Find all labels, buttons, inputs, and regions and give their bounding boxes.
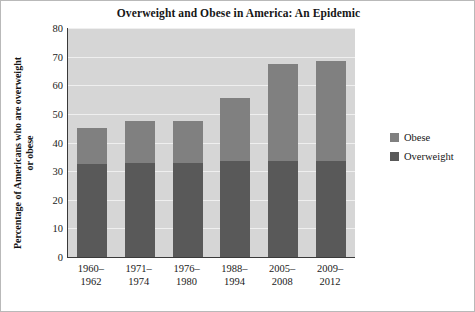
legend: ObeseOverweight <box>390 132 454 162</box>
chart-figure: Overweight and Obese in America: An Epid… <box>0 0 475 312</box>
bar-group <box>68 28 355 257</box>
legend-swatch <box>390 133 399 142</box>
x-axis-tick-label-line2: 2012 <box>308 275 352 288</box>
x-axis-tick-label-line2: 1994 <box>212 275 256 288</box>
bar-segment-overweight <box>77 164 107 257</box>
bar-segment-overweight <box>220 161 250 257</box>
y-axis-tick-label: 70 <box>35 51 63 62</box>
chart-title: Overweight and Obese in America: An Epid… <box>1 7 475 19</box>
bar-segment-overweight <box>316 161 346 257</box>
bar-stack <box>316 28 346 257</box>
x-axis-tick-label: 1988–1994 <box>212 262 256 296</box>
bar-stack <box>173 28 203 257</box>
x-axis-tick-label: 1960–1962 <box>69 262 113 296</box>
plot-area <box>67 28 355 258</box>
y-axis-tick-label: 40 <box>35 137 63 148</box>
x-axis-tick-label-line2: 1980 <box>165 275 209 288</box>
bar-stack <box>220 28 250 257</box>
y-axis-tick-label: 30 <box>35 166 63 177</box>
x-axis-tick-label: 2009–2012 <box>308 262 352 296</box>
x-axis-tick-label-line1: 1960– <box>69 262 113 275</box>
bar-stack <box>125 28 155 257</box>
x-axis-tick-label-line2: 2008 <box>260 275 304 288</box>
y-axis-tick-labels: 01020304050607080 <box>31 28 63 257</box>
legend-label: Obese <box>404 132 430 143</box>
bar-segment-obese <box>268 64 298 161</box>
x-axis-tick-label-line1: 1971– <box>117 262 161 275</box>
bar-segment-overweight <box>268 161 298 257</box>
bar-segment-overweight <box>125 163 155 257</box>
x-axis-tick-label-line2: 1974 <box>117 275 161 288</box>
y-axis-tick-label: 0 <box>35 252 63 263</box>
legend-label: Overweight <box>404 151 454 162</box>
bar-segment-obese <box>316 61 346 161</box>
x-axis-tick-label-line1: 2005– <box>260 262 304 275</box>
legend-item: Overweight <box>390 151 454 162</box>
x-axis-tick-label-line1: 1976– <box>165 262 209 275</box>
legend-item: Obese <box>390 132 454 143</box>
y-axis-tick-label: 20 <box>35 194 63 205</box>
x-axis-tick-labels: 1960–19621971–19741976–19801988–19942005… <box>67 262 354 296</box>
x-axis-tick-label: 1971–1974 <box>117 262 161 296</box>
x-axis-tick-label-line1: 2009– <box>308 262 352 275</box>
x-axis-tick-label-line1: 1988– <box>212 262 256 275</box>
legend-swatch <box>390 152 399 161</box>
bar-segment-obese <box>173 121 203 163</box>
y-axis-tick-label: 50 <box>35 108 63 119</box>
x-axis-tick-label: 2005–2008 <box>260 262 304 296</box>
bar-segment-obese <box>125 121 155 163</box>
y-axis-tick-label: 10 <box>35 223 63 234</box>
bar-stack <box>77 28 107 257</box>
bar-segment-obese <box>77 128 107 164</box>
y-axis-tick-label: 80 <box>35 23 63 34</box>
bar-segment-obese <box>220 98 250 161</box>
bar-stack <box>268 28 298 257</box>
x-axis-tick-label: 1976–1980 <box>165 262 209 296</box>
x-axis-tick-label-line2: 1962 <box>69 275 113 288</box>
y-axis-tick-label: 60 <box>35 80 63 91</box>
bar-segment-overweight <box>173 163 203 257</box>
